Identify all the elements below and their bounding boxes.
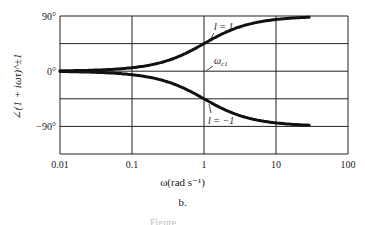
- x-tick-label: 1: [202, 159, 207, 170]
- y-tick-label: 0°: [47, 66, 56, 77]
- annotation-l-positive: l = 1: [214, 21, 234, 32]
- annotations: l = 1 ωc1 l = −1: [206, 21, 234, 126]
- y-tick-label: 90°: [42, 11, 56, 22]
- figure-caption: Figure: [150, 217, 176, 225]
- tick-labels: 0.010.111010090°0°−90°: [36, 11, 355, 170]
- annotation-wc1: ωc1: [214, 55, 228, 68]
- x-tick-label: 100: [341, 159, 356, 170]
- x-tick-label: 0.1: [126, 159, 139, 170]
- x-axis-label: ω(rad s⁻¹): [0, 176, 365, 189]
- annotation-l-negative: l = −1: [208, 115, 234, 126]
- grid: [60, 16, 348, 154]
- y-tick-label: −90°: [36, 121, 56, 132]
- subplot-label: b.: [0, 196, 365, 208]
- phase-chart: 0.010.111010090°0°−90° l = 1 ωc1 l = −1: [0, 0, 365, 225]
- y-axis-label: ∠(1 + iωτ)^±1: [11, 32, 24, 142]
- x-tick-label: 0.01: [51, 159, 69, 170]
- x-tick-label: 10: [271, 159, 281, 170]
